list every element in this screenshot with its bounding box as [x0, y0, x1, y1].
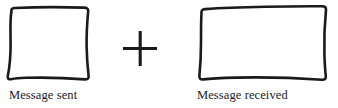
caption-message-sent: Message sent [9, 88, 77, 103]
caption-message-received: Message received [197, 88, 288, 103]
hand-drawn-rectangle-shape [199, 6, 326, 79]
message-diagram-figure: Message sent Message received [0, 0, 338, 108]
hand-drawn-square-shape [8, 7, 89, 79]
